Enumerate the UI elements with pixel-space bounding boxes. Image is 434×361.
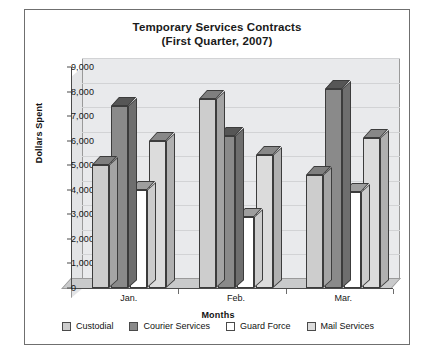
y-axis-tick-label: 1,000 xyxy=(71,258,75,268)
legend-label: Custodial xyxy=(76,321,114,331)
bar-side-face xyxy=(323,167,332,288)
y-axis-tick-mark xyxy=(67,189,71,190)
bar xyxy=(306,175,323,288)
bar-side-face xyxy=(109,157,118,288)
gridline xyxy=(82,58,400,59)
y-axis-tick-label: 4,000 xyxy=(71,185,75,195)
x-axis-tick-label: Jan. xyxy=(120,293,137,303)
gridline xyxy=(82,83,400,84)
y-axis-tick-label: 6,000 xyxy=(71,136,75,146)
y-axis-tick-mark xyxy=(67,238,71,239)
legend-item[interactable]: Custodial xyxy=(62,321,114,331)
y-axis-tick-mark xyxy=(67,214,71,215)
x-axis-tick-mark xyxy=(286,289,287,294)
bar-side-face xyxy=(361,184,370,288)
y-axis-tick-label: 7,000 xyxy=(71,111,75,121)
legend-item[interactable]: Guard Force xyxy=(226,321,291,331)
y-axis-tick-mark xyxy=(67,165,71,166)
plot-area: 01,0002,0003,0004,0005,0006,0007,0008,00… xyxy=(25,10,411,346)
bar-side-face xyxy=(342,81,351,288)
y-axis-tick-label: 8,000 xyxy=(71,87,75,97)
bar xyxy=(92,165,109,288)
bar-front-face xyxy=(306,175,323,288)
x-axis-tick-mark xyxy=(393,289,394,294)
bar xyxy=(199,99,216,288)
y-axis-title: Dollars Spent xyxy=(34,103,44,164)
y-axis-tick-mark xyxy=(67,91,71,92)
legend-label: Courier Services xyxy=(143,321,210,331)
y-axis-tick-label: 3,000 xyxy=(71,209,75,219)
legend-label: Guard Force xyxy=(240,321,291,331)
x-axis-line xyxy=(71,288,393,289)
bar-side-face xyxy=(128,98,137,288)
y-axis-tick-mark xyxy=(67,140,71,141)
chart-container: Temporary Services Contracts (First Quar… xyxy=(0,0,434,361)
legend-swatch xyxy=(62,322,71,331)
y-axis-tick-label: 2,000 xyxy=(71,234,75,244)
bar-front-face xyxy=(199,99,216,288)
y-axis-tick-label: 5,000 xyxy=(71,160,75,170)
legend-swatch xyxy=(129,322,138,331)
y-axis-tick-mark xyxy=(67,288,71,289)
y-axis-tick-mark xyxy=(67,263,71,264)
y-axis-tick-label: 0 xyxy=(71,283,75,293)
x-axis-title: Months xyxy=(25,310,411,320)
y-axis-tick-label: 9,000 xyxy=(71,62,75,72)
y-axis-tick-mark xyxy=(67,67,71,68)
y-axis-tick-mark xyxy=(67,116,71,117)
bar-side-face xyxy=(380,130,389,288)
chart-legend: CustodialCourier ServicesGuard ForceMail… xyxy=(25,321,411,331)
y-axis-line xyxy=(71,67,72,289)
legend-item[interactable]: Mail Services xyxy=(307,321,375,331)
legend-swatch xyxy=(226,322,235,331)
x-axis-tick-label: Feb. xyxy=(227,293,245,303)
legend-swatch xyxy=(307,322,316,331)
legend-label: Mail Services xyxy=(321,321,375,331)
bar-side-face xyxy=(216,91,225,288)
x-axis-tick-label: Mar. xyxy=(335,293,353,303)
bar-side-face xyxy=(166,133,175,288)
bar-side-face xyxy=(147,182,156,288)
x-axis-tick-mark xyxy=(178,289,179,294)
bar-side-face xyxy=(235,128,244,288)
bar-side-face xyxy=(254,209,263,288)
bar-side-face xyxy=(273,147,282,288)
bar-front-face xyxy=(92,165,109,288)
chart-frame: Temporary Services Contracts (First Quar… xyxy=(24,9,410,345)
legend-item[interactable]: Courier Services xyxy=(129,321,210,331)
